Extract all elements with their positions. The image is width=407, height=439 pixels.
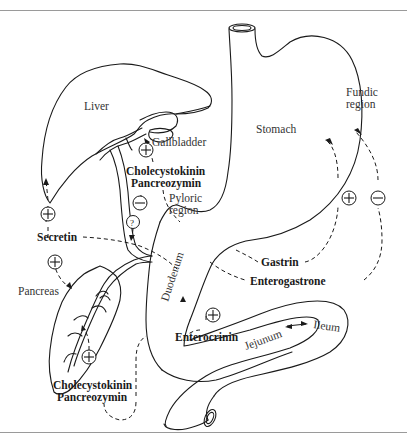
enterogastrone-label: Enterogastrone bbox=[250, 275, 326, 288]
pyloric-region-label-line2: region bbox=[169, 204, 199, 217]
enterocrinin-label: Enterocrinin bbox=[175, 331, 239, 343]
duodenum-label: Duodenum bbox=[158, 250, 185, 302]
plus-icon-gastrin-fundic bbox=[342, 191, 356, 205]
liver-label: Liver bbox=[84, 100, 109, 112]
plus-icon-gallbladder bbox=[139, 143, 153, 157]
secretin-label: Secretin bbox=[37, 231, 78, 243]
gastrin-label: Gastrin bbox=[261, 256, 299, 268]
cck-bottom-label-line2: Pancreozymin bbox=[57, 391, 128, 404]
stomach-shape bbox=[146, 24, 362, 430]
stomach-label: Stomach bbox=[256, 123, 296, 135]
minus-icon-enterogastrone-fundic bbox=[371, 191, 385, 205]
digestive-hormone-diagram: ? Liver Gallbladder Stomach Fundic regio… bbox=[0, 0, 407, 439]
plus-icon-liver bbox=[41, 207, 55, 221]
ileum-label: Ileum bbox=[313, 318, 341, 334]
plus-icon-cck-pancreas bbox=[82, 350, 96, 364]
minus-icon-pyloric bbox=[133, 196, 147, 210]
fundic-region-label-line2: region bbox=[346, 98, 376, 111]
pancreas-label: Pancreas bbox=[18, 285, 59, 297]
fundic-region-label-line1: Fundic bbox=[346, 86, 378, 98]
unknown-effect-label: ? bbox=[130, 218, 134, 228]
gallbladder-label: Gallbladder bbox=[152, 136, 206, 148]
cck-top-label-line2: Pancreozymin bbox=[131, 177, 202, 190]
jejunum-label: Jejunum bbox=[243, 327, 284, 353]
plus-icon-secretin-pancreas bbox=[48, 255, 62, 269]
plus-icon-enterocrinin bbox=[206, 308, 220, 322]
pancreas-shape bbox=[49, 256, 152, 394]
hormone-pathways bbox=[46, 132, 382, 420]
